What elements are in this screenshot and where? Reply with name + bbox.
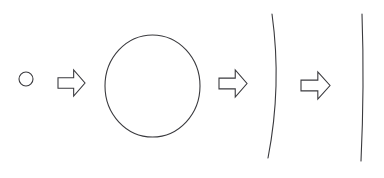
straight-line [361, 14, 363, 161]
diagram-svg [0, 0, 384, 178]
arrow-two-icon [219, 70, 247, 97]
diagram-canvas [0, 0, 384, 178]
small-circle [19, 72, 33, 86]
curved-line [268, 14, 276, 158]
arrow-one-icon [58, 70, 85, 96]
large-circle [105, 35, 200, 137]
arrow-three-icon [301, 72, 330, 99]
